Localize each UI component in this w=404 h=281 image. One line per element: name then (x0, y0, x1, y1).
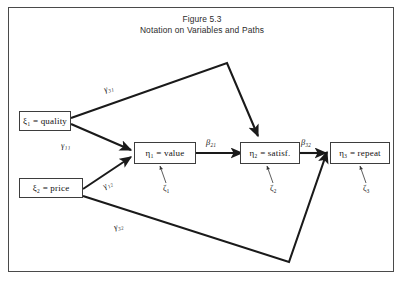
disturbance-arrow-zeta3 (360, 166, 366, 183)
path-label-gamma11: γ₁₁ (61, 141, 71, 151)
figure-canvas: Figure 5.3 Notation on Variables and Pat… (0, 0, 404, 281)
node-eta2-satisf[interactable]: η₂ = satisf. (240, 142, 300, 164)
disturbance-label-zeta1-text: ζ₁ (163, 183, 170, 193)
node-eta1-label: η₁ = value (146, 148, 185, 158)
disturbance-label-zeta3: ζ₃ (363, 183, 370, 193)
node-xi1-label: ξ₁ = quality (23, 116, 67, 126)
path-label-gamma11-text: γ₁₁ (61, 141, 71, 151)
path-label-beta21: β₂₁ (206, 138, 216, 147)
node-eta3-repeat[interactable]: η₃ = repeat (330, 142, 390, 164)
disturbance-arrow-zeta1 (160, 166, 166, 183)
disturbance-arrow-zeta2 (267, 166, 273, 183)
path-arrow-gamma32 (83, 152, 327, 262)
path-arrow-gamma31 (71, 63, 258, 136)
disturbance-label-zeta2-text: ζ₂ (270, 183, 277, 193)
path-label-beta32: β₃₂ (301, 138, 311, 147)
node-xi2-label: ξ₂ = price (33, 183, 70, 193)
disturbance-label-zeta2: ζ₂ (270, 183, 277, 193)
path-label-beta21-text: β₂₁ (206, 138, 216, 147)
node-xi1-quality[interactable]: ξ₁ = quality (19, 111, 71, 131)
path-arrow-gamma11 (71, 124, 131, 150)
node-eta1-value[interactable]: η₁ = value (134, 142, 196, 164)
node-eta3-label: η₃ = repeat (339, 148, 381, 158)
path-label-beta32-text: β₃₂ (301, 138, 311, 147)
disturbance-label-zeta3-text: ζ₃ (363, 183, 370, 193)
disturbance-label-zeta1: ζ₁ (163, 183, 170, 193)
node-eta2-label: η₂ = satisf. (249, 148, 290, 158)
node-xi2-price[interactable]: ξ₂ = price (19, 178, 83, 198)
